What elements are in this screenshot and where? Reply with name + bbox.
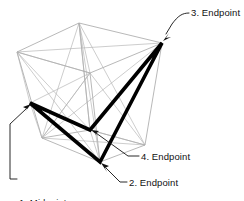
label-midpoint-1: 1. Midpoint: [19, 197, 67, 201]
arrowhead-endpoint-3: [163, 33, 171, 41]
label-endpoint-3: 3. Endpoint: [191, 7, 240, 19]
leader-endpoint-2: [106, 168, 127, 182]
diag-top-to-back: [79, 23, 90, 130]
spoke-mid-to-front: [30, 73, 90, 103]
spoke-mid-to-topleft: [17, 52, 30, 103]
leader-endpoint-3: [166, 13, 189, 34]
figure-canvas: 3. Endpoint 4. Endpoint 2. Endpoint 1. M…: [0, 0, 244, 201]
diag-top-to-bottomright: [79, 23, 145, 145]
diag-topface-a: [17, 52, 90, 73]
diag-corner3-to-bottomleft: [42, 43, 162, 138]
arrowhead-endpoint-4: [91, 130, 99, 136]
arrowhead-endpoint-2: [101, 163, 109, 172]
label-endpoint-4: 4. Endpoint: [141, 151, 190, 163]
leader-endpoint-4: [96, 133, 139, 156]
label-endpoint-2: 2. Endpoint: [129, 177, 178, 189]
leader-midpoint-1: [10, 109, 26, 179]
polyline-box-diagram: [0, 0, 244, 201]
box-wireframe: [17, 23, 162, 162]
box-top-face: [17, 23, 162, 73]
diag-corner3-to-topleft: [17, 43, 162, 52]
label-midpoint-close-group: 1. Midpoint 5. Close: [19, 174, 67, 201]
